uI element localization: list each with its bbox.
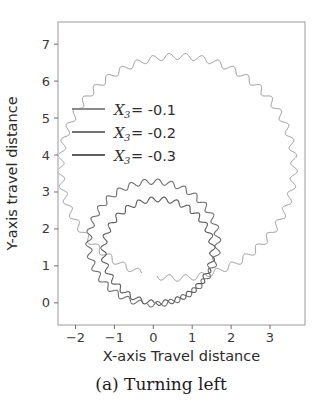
legend-value-3: = -0.3 bbox=[131, 148, 176, 164]
x-tick-label: −1 bbox=[105, 330, 124, 345]
x-tick-label: 2 bbox=[227, 330, 235, 345]
y-axis: 01234567 bbox=[42, 37, 58, 311]
y-tick-label: 5 bbox=[42, 111, 50, 126]
y-axis-title: Y-axis travel distance bbox=[4, 96, 20, 251]
legend-subscript-1: 3 bbox=[124, 109, 130, 120]
x-axis: −2−10123 bbox=[66, 325, 274, 345]
figure-container: −2−1012301234567X-axis Travel distanceY-… bbox=[0, 0, 323, 420]
y-tick-label: 3 bbox=[42, 184, 50, 199]
y-tick-label: 1 bbox=[42, 258, 50, 273]
x-tick-label: 0 bbox=[149, 330, 157, 345]
plot-frame bbox=[58, 22, 305, 325]
y-tick-label: 4 bbox=[42, 148, 50, 163]
x-axis-title: X-axis Travel distance bbox=[103, 348, 260, 364]
y-tick-label: 0 bbox=[42, 295, 50, 310]
x-tick-label: 3 bbox=[266, 330, 274, 345]
legend-subscript-2: 3 bbox=[124, 132, 130, 143]
y-tick-label: 7 bbox=[42, 37, 50, 52]
legend-value-2: = -0.2 bbox=[131, 125, 176, 141]
legend-subscript-3: 3 bbox=[124, 155, 130, 166]
legend-value-1: = -0.1 bbox=[131, 102, 176, 118]
y-tick-label: 6 bbox=[42, 74, 50, 89]
trajectory-plot: −2−1012301234567X-axis Travel distanceY-… bbox=[0, 0, 323, 420]
x-tick-label: 1 bbox=[188, 330, 196, 345]
y-tick-label: 2 bbox=[42, 221, 50, 236]
figure-caption: (a) Turning left bbox=[95, 374, 227, 394]
x-tick-label: −2 bbox=[66, 330, 85, 345]
